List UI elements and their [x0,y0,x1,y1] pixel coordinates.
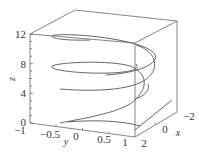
x-tick-m2: −2 [183,110,195,122]
chart-svg: 12 8 4 0 z −1 −0.5 0 0.5 1 y 2 0 −2 x [0,0,199,157]
y-tick-05: 0.5 [97,133,111,145]
y-tick-0: 0 [73,130,79,142]
y-tick-m05: −0.5 [40,128,60,140]
z-ticks [30,34,33,123]
z-tick-8: 8 [21,58,27,70]
z-tick-4: 4 [21,87,27,99]
x-axis-label: x [175,127,181,138]
helix-curve [52,35,172,130]
x-tick-2: 2 [141,137,147,149]
chart-3d-helix: 12 8 4 0 z −1 −0.5 0 0.5 1 y 2 0 −2 x [0,0,199,157]
z-tick-12: 12 [15,28,26,40]
y-tick-1: 1 [122,136,128,148]
x-ticks [155,123,157,125]
y-tick-m1: −1 [14,124,26,136]
x-tick-0: 0 [162,123,168,135]
z-axis-label: z [6,77,17,82]
y-axis-label: y [63,136,69,147]
